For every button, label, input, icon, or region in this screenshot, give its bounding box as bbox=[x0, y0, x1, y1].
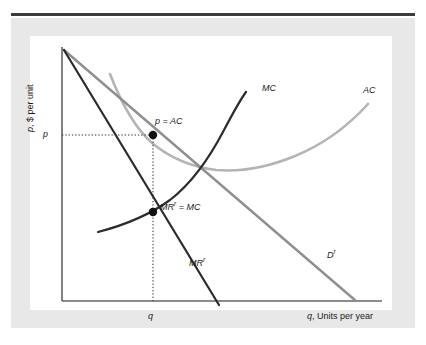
y-axis-label: p, $ per unit bbox=[26, 46, 35, 132]
mr-equals-mc-point bbox=[149, 208, 157, 216]
y-axis-label-units: , $ per unit bbox=[25, 84, 35, 127]
demand-curve bbox=[64, 50, 356, 301]
x-axis-label-units: , Units per year bbox=[312, 311, 373, 321]
mr-equals-mc-label-base: MR bbox=[160, 202, 174, 212]
mr-equals-mc-label: MRr = MC bbox=[160, 203, 200, 212]
y-axis-tick-label-p: p bbox=[43, 130, 48, 139]
demand-curve-label-superscript: r bbox=[334, 248, 336, 255]
x-axis-tick-label-q: q bbox=[148, 312, 153, 321]
demand-curve-label: Dr bbox=[327, 251, 336, 260]
marginal-revenue-curve-label-base: MR bbox=[189, 258, 203, 268]
marginal-revenue-curve-label: MRr bbox=[189, 259, 205, 268]
mc-curve-label: MC bbox=[262, 84, 276, 93]
ac-curve-label: AC bbox=[363, 86, 376, 95]
chart-canvas bbox=[0, 0, 426, 345]
price-equals-ac-label: p = AC bbox=[155, 117, 182, 126]
mr-equals-mc-label-tail: = MC bbox=[176, 202, 200, 212]
y-axis-label-variable: p bbox=[25, 127, 35, 132]
marginal-revenue-curve-label-superscript: r bbox=[203, 256, 205, 263]
x-axis-label: q, Units per year bbox=[307, 312, 373, 321]
figure-root: p, $ per unit q, Units per year p q MC A… bbox=[0, 0, 426, 345]
price-equals-ac-point bbox=[149, 131, 157, 139]
